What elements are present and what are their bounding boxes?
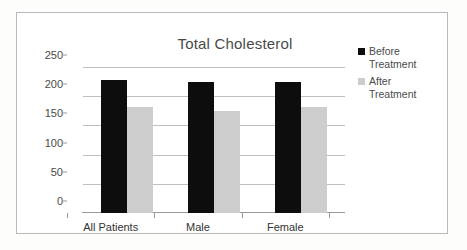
y-axis-tick: [62, 55, 67, 56]
bar-group: [275, 67, 327, 213]
chart-title: Total Cholesterol: [135, 35, 335, 52]
chart-frame: Total Cholesterol Before Treatment After…: [16, 12, 448, 234]
bar-before-treatment[interactable]: [101, 80, 127, 213]
plot-area: [83, 67, 345, 213]
y-axis-tick-label: 150: [27, 107, 63, 119]
legend-label-line2: Treatment: [369, 58, 454, 71]
bar-before-treatment[interactable]: [275, 82, 301, 213]
x-axis-category-label: Male: [186, 221, 210, 233]
black-square-swatch: [358, 48, 365, 55]
x-axis-category-label: All Patients: [83, 221, 138, 233]
legend-label-line1: Before: [369, 45, 454, 58]
x-axis-tick: [67, 213, 68, 218]
bar-after-treatment[interactable]: [214, 111, 240, 213]
legend-label-line1: After: [369, 75, 454, 88]
x-axis-tick: [242, 213, 243, 218]
x-axis-tick: [154, 213, 155, 218]
y-axis-tick: [62, 113, 67, 114]
legend-label-line2: Treatment: [369, 88, 454, 101]
legend-item-before-treatment[interactable]: Before Treatment: [358, 45, 454, 71]
chart-legend: Before Treatment After Treatment: [358, 45, 454, 105]
y-axis-tick-label: 200: [27, 78, 63, 90]
bar-group: [188, 67, 240, 213]
gray-square-swatch: [358, 78, 365, 85]
y-axis-tick: [62, 142, 67, 143]
y-axis-tick: [62, 201, 67, 202]
y-axis-tick: [62, 171, 67, 172]
y-axis-tick-label: 0: [27, 195, 63, 207]
bar-before-treatment[interactable]: [188, 82, 214, 213]
x-axis-tick: [329, 213, 330, 218]
bar-after-treatment[interactable]: [301, 107, 327, 213]
y-axis-tick-label: 50: [27, 166, 63, 178]
y-axis-tick-label: 100: [27, 137, 63, 149]
y-axis-tick-label: 250: [27, 49, 63, 61]
x-axis-category-label: Female: [267, 221, 304, 233]
bar-group: [101, 67, 153, 213]
y-axis-tick: [62, 84, 67, 85]
legend-item-after-treatment[interactable]: After Treatment: [358, 75, 454, 101]
bar-after-treatment[interactable]: [127, 107, 153, 213]
